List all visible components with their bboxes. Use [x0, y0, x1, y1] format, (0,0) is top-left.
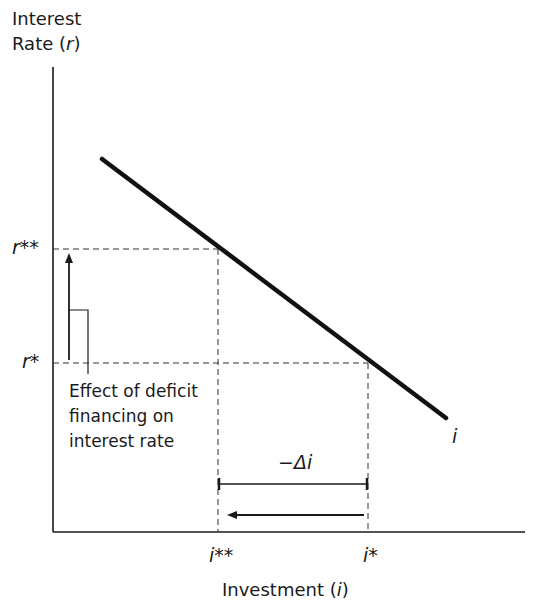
y-axis-title-line1: Interest — [12, 6, 81, 31]
tick-r-star: r* — [22, 350, 39, 372]
effect-annotation: Effect of deficit financing on interest … — [69, 379, 198, 454]
diagram-canvas — [0, 0, 534, 605]
tick-r-double-star: r** — [12, 236, 39, 258]
effect-connector — [69, 310, 88, 374]
x-axis-title: Investment (i) — [222, 579, 349, 601]
tick-i-double-star: i** — [209, 544, 233, 566]
effect-line-1: Effect of deficit — [69, 379, 198, 404]
tick-i-star: i* — [363, 544, 378, 566]
effect-line-3: interest rate — [69, 429, 198, 454]
y-axis-title: Interest Rate (r) — [12, 6, 81, 56]
y-axis-title-line2: Rate (r) — [12, 31, 81, 56]
curve-label-i: i — [452, 425, 457, 447]
delta-i-label: −Δi — [278, 451, 312, 473]
effect-line-2: financing on — [69, 404, 198, 429]
